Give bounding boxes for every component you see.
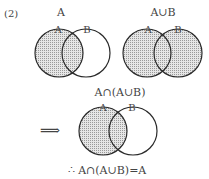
problem-label: (2): [4, 8, 18, 19]
diagram-title: A∪B: [149, 6, 175, 19]
label-b: B: [83, 24, 90, 35]
label-a: A: [98, 102, 107, 113]
label-a: A: [143, 24, 152, 35]
label-b: B: [174, 24, 181, 35]
venn-diagram-a: A A B: [35, 6, 110, 77]
venn-diagram-a-intersect-a-union-b: A∩(A∪B) A B: [79, 86, 157, 155]
conclusion-text: ∴ A∩(A∪B)=A: [68, 164, 148, 177]
diagram-title: A∩(A∪B): [94, 86, 146, 99]
label-a: A: [53, 24, 62, 35]
venn-diagram-a-union-b: A∪B A B: [123, 6, 202, 77]
implies-arrow-icon: ⟹: [40, 122, 60, 138]
venn-diagram-figure: (2) A A B A∪B A B ⟹ A∩(A∪B) A B ∴ A∩(A∪B…: [0, 0, 209, 179]
label-b: B: [128, 102, 135, 113]
diagram-title: A: [56, 6, 66, 19]
